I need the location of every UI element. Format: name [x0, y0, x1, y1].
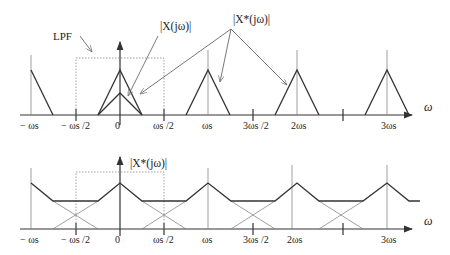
svg-text:3ωs /2: 3ωs /2 [243, 120, 269, 131]
svg-text:3ωs /2: 3ωs /2 [243, 234, 269, 245]
baseband-label: |X(jω)| [160, 20, 191, 33]
svg-text:2ωs: 2ωs [287, 234, 303, 245]
svg-text:ωs: ωs [202, 234, 213, 245]
svg-text:ωs /2: ωs /2 [153, 234, 174, 245]
svg-text:ωs: ωs [202, 120, 213, 131]
svg-text:0: 0 [115, 120, 120, 131]
svg-text:ωs /2: ωs /2 [153, 120, 174, 131]
svg-text:− ωs /2: − ωs /2 [61, 120, 90, 131]
top-omega-label: ω [424, 100, 432, 114]
svg-text:2ωs: 2ωs [291, 120, 307, 131]
aliased-sampled-label: |X*(jω)| [130, 157, 167, 170]
replica-minus-ws [31, 70, 53, 115]
svg-text:3ωs: 3ωs [381, 120, 397, 131]
lpf-label: LPF [53, 30, 72, 42]
sampling-spectrum-figure: LPF |X(jω)| |X*(jω)| ω − ωs − ωs /2 0 ωs… [0, 0, 450, 255]
svg-text:− ωs: − ωs [20, 234, 39, 245]
sampled-label: |X*(jω)| [233, 13, 270, 26]
aliased-spectrum [31, 183, 420, 201]
top-panel: LPF |X(jω)| |X*(jω)| ω − ωs − ωs /2 0 ωs… [20, 13, 432, 131]
svg-text:0: 0 [115, 234, 120, 245]
bottom-omega-label: ω [424, 214, 432, 228]
svg-text:− ωs /2: − ωs /2 [61, 234, 90, 245]
svg-text:3ωs: 3ωs [381, 234, 397, 245]
svg-text:− ωs: − ωs [20, 120, 39, 131]
bottom-tick-labels: − ωs − ωs /2 0 ωs /2 ωs 3ωs /2 2ωs 3ωs [20, 234, 397, 245]
top-tick-labels: − ωs − ωs /2 0 ωs /2 ωs 3ωs /2 2ωs 3ωs [20, 120, 397, 131]
bottom-panel: |X*(jω)| ω − ωs − ωs /2 0 ωs /2 ωs 3ωs /… [20, 157, 432, 245]
